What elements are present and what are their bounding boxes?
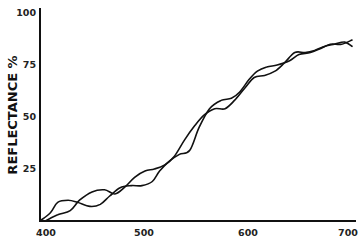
reflectance-chart: REFLECTANCE % 255075100 400500600700 <box>0 0 359 247</box>
x-tick-label: 600 <box>238 227 258 238</box>
y-tick-label: 100 <box>16 7 36 18</box>
series-line-curve-b <box>45 42 352 221</box>
y-axis-label: REFLECTANCE % <box>5 55 20 174</box>
x-tick-labels: 400500600700 <box>36 227 358 238</box>
axes <box>39 8 356 221</box>
y-tick-label: 50 <box>23 111 37 122</box>
x-tick-label: 700 <box>338 227 358 238</box>
series-group <box>40 40 352 221</box>
x-tick-label: 400 <box>36 227 56 238</box>
x-tick-label: 500 <box>134 227 154 238</box>
y-tick-label: 25 <box>23 163 36 174</box>
y-tick-label: 75 <box>23 59 36 70</box>
